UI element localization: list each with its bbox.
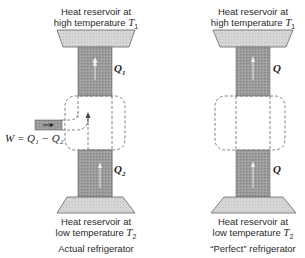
- left-q1-label: Q1: [114, 62, 125, 77]
- right-low-temp-reservoir: [211, 197, 296, 213]
- left-bottom-reservoir-label: Heat reservoir at low temperature T2: [46, 216, 146, 242]
- left-top-reservoir-label: Heat reservoir at high temperature T1: [46, 6, 146, 32]
- left-high-temp-reservoir: [57, 30, 135, 47]
- work-equation-label: W = Q₁ − Q₂: [5, 132, 64, 144]
- right-high-temp-reservoir: [213, 30, 293, 47]
- right-lower-q-label: Q: [273, 163, 281, 175]
- right-top-reservoir-label: Heat reservoir at high temperature T1: [203, 6, 303, 32]
- right-upper-q-label: Q: [273, 62, 281, 74]
- left-refrigerator-device-box: [65, 96, 125, 150]
- right-bottom-reservoir-label: Heat reservoir at low temperature T2: [203, 216, 303, 242]
- left-q2-label: Q2: [114, 163, 125, 178]
- right-caption: “Perfect” refrigerator: [198, 243, 305, 254]
- left-low-temp-reservoir: [57, 197, 135, 213]
- left-caption: Actual refrigerator: [46, 243, 146, 254]
- right-refrigerator-device-box: [215, 96, 285, 150]
